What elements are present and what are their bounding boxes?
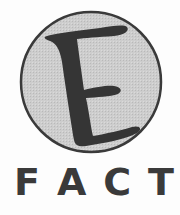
wordmark-letter-f: F [14, 162, 40, 202]
e-emblem-icon [0, 0, 180, 160]
wordmark-letter-a: A [57, 162, 86, 202]
wordmark-letter-c: C [103, 162, 131, 202]
logo-canvas: F A C T [0, 0, 180, 215]
wordmark: F A C T [14, 162, 174, 202]
wordmark-letter-t: T [148, 162, 174, 202]
